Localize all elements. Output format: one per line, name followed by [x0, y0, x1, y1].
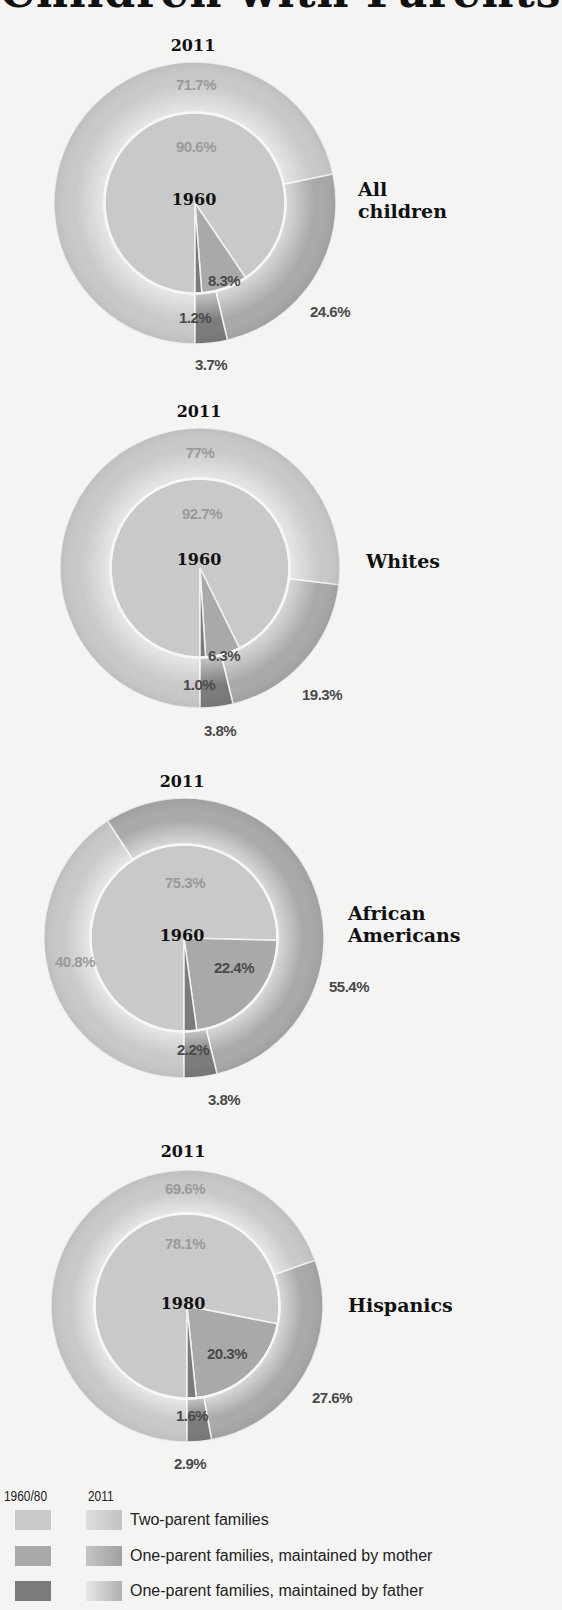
inner-year-label: 1980 [161, 1294, 206, 1313]
outer-two-parent-value: 77% [186, 444, 215, 461]
outer-year-label: 2011 [161, 1142, 206, 1161]
group-label: Whites [366, 550, 440, 572]
outer-mother-value: 24.6% [310, 303, 350, 320]
inner-mother-value: 20.3% [207, 1345, 247, 1362]
inner-year-label: 1960 [172, 190, 217, 209]
legend-header-1960-80: 1960/80 [4, 1488, 47, 1504]
outer-two-parent-value: 69.6% [165, 1180, 205, 1197]
inner-two-parent-value: 90.6% [176, 138, 216, 155]
outer-mother-value: 27.6% [312, 1389, 352, 1406]
outer-year-label: 2011 [171, 36, 216, 55]
group-label: Hispanics [348, 1294, 453, 1316]
inner-father-value: 1.0% [183, 676, 215, 693]
inner-year-label: 1960 [177, 550, 222, 569]
group-label: African Americans [348, 902, 461, 946]
legend-swatch-mother-2011 [86, 1546, 122, 1566]
outer-mother-value: 19.3% [302, 686, 342, 703]
inner-father-value: 2.2% [177, 1041, 209, 1058]
inner-father-value: 1.6% [176, 1407, 208, 1424]
outer-two-parent-value: 40.8% [55, 953, 95, 970]
donut-chart-svg [0, 380, 534, 750]
outer-father-value: 3.7% [195, 356, 227, 373]
inner-year-label: 1960 [160, 926, 205, 945]
outer-father-value: 3.8% [204, 722, 236, 739]
legend-swatch-father-1960 [15, 1581, 51, 1601]
group-label: All children [358, 178, 447, 222]
legend-header-2011: 2011 [88, 1488, 114, 1504]
chart-hispanics: 2011 1980 Hispanics 69.6% 78.1% 20.3% 1.… [0, 1130, 534, 1490]
inner-mother-value: 6.3% [208, 647, 240, 664]
inner-two-parent-value: 75.3% [165, 874, 205, 891]
chart-african-americans: 2011 1960 African Americans 40.8% 75.3% … [0, 750, 534, 1130]
inner-two-parent-value: 78.1% [165, 1235, 205, 1252]
chart-all-children: 2011 1960 All children 71.7% 90.6% 8.3% … [0, 0, 534, 380]
legend-label-father: One-parent families, maintained by fathe… [130, 1582, 423, 1600]
chart-whites: 2011 1960 Whites 77% 92.7% 6.3% 1.0% 19.… [0, 380, 534, 750]
donut-chart-svg [0, 0, 534, 380]
legend-swatch-two-parent-2011 [86, 1510, 122, 1530]
inner-mother-value: 8.3% [208, 272, 240, 289]
inner-mother-value: 22.4% [214, 959, 254, 976]
legend-label-two-parent: Two-parent families [130, 1511, 269, 1529]
legend-label-mother: One-parent families, maintained by mothe… [130, 1547, 432, 1565]
legend: 1960/80 2011 Two-parent families One-par… [0, 1488, 534, 1610]
outer-mother-value: 55.4% [329, 978, 369, 995]
outer-father-value: 3.8% [208, 1091, 240, 1108]
outer-father-value: 2.9% [174, 1455, 206, 1472]
donut-chart-svg [0, 1130, 534, 1490]
outer-year-label: 2011 [160, 772, 205, 791]
inner-two-parent-value: 92.7% [182, 505, 222, 522]
outer-year-label: 2011 [177, 402, 222, 421]
legend-swatch-father-2011 [86, 1581, 122, 1601]
legend-swatch-mother-1960 [15, 1546, 51, 1566]
inner-father-value: 1.2% [179, 309, 211, 326]
outer-two-parent-value: 71.7% [176, 76, 216, 93]
legend-swatch-two-parent-1960 [15, 1510, 51, 1530]
